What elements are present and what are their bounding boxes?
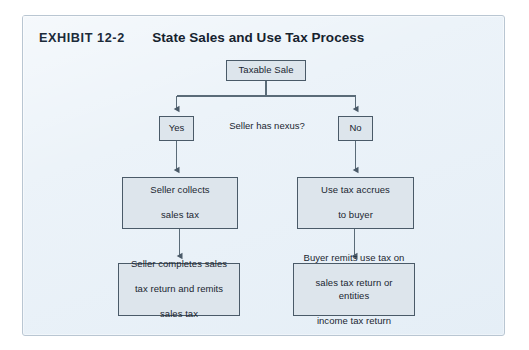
node-yes-label: Yes bbox=[166, 122, 188, 135]
node-yes[interactable]: Yes bbox=[159, 116, 194, 141]
node-seller-completes-line2: tax return and remits bbox=[128, 283, 230, 296]
node-taxable-sale-label: Taxable Sale bbox=[236, 64, 297, 77]
node-seller-completes[interactable]: Seller completes sales tax return and re… bbox=[118, 263, 240, 316]
node-use-tax-accrues[interactable]: Use tax accrues to buyer bbox=[297, 177, 414, 229]
node-buyer-remits[interactable]: Buyer remits use tax on sales tax return… bbox=[293, 263, 415, 316]
exhibit-panel: EXHIBIT 12-2 State Sales and Use Tax Pro… bbox=[22, 15, 505, 336]
node-seller-collects[interactable]: Seller collects sales tax bbox=[122, 177, 238, 229]
node-buyer-remits-text: Buyer remits use tax on sales tax return… bbox=[294, 252, 414, 327]
node-seller-collects-line2: sales tax bbox=[147, 209, 212, 222]
node-seller-collects-text: Seller collects sales tax bbox=[144, 184, 215, 222]
node-seller-completes-line3: sales tax bbox=[128, 308, 230, 321]
node-use-tax-accrues-line2: to buyer bbox=[318, 209, 393, 222]
node-buyer-remits-line3: income tax return bbox=[297, 315, 411, 328]
node-seller-completes-text: Seller completes sales tax return and re… bbox=[125, 258, 233, 321]
node-buyer-remits-line1: Buyer remits use tax on bbox=[297, 252, 411, 265]
node-use-tax-accrues-text: Use tax accrues to buyer bbox=[315, 184, 396, 222]
node-no[interactable]: No bbox=[338, 116, 373, 141]
node-use-tax-accrues-line1: Use tax accrues bbox=[318, 184, 393, 197]
decision-question-label: Seller has nexus? bbox=[207, 120, 327, 133]
node-buyer-remits-line2: sales tax return or entities bbox=[297, 277, 411, 302]
node-seller-collects-line1: Seller collects bbox=[147, 184, 212, 197]
node-no-label: No bbox=[346, 122, 364, 135]
node-taxable-sale[interactable]: Taxable Sale bbox=[226, 60, 306, 81]
node-seller-completes-line1: Seller completes sales bbox=[128, 258, 230, 271]
